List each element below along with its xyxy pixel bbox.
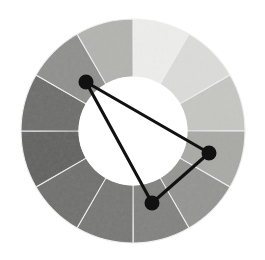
color-wheel-canvas bbox=[0, 0, 265, 260]
harmony-node-right[interactable] bbox=[202, 146, 217, 161]
harmony-node-upper-left[interactable] bbox=[79, 75, 94, 90]
color-wheel-figure bbox=[0, 0, 265, 260]
harmony-node-bottom[interactable] bbox=[145, 196, 160, 211]
